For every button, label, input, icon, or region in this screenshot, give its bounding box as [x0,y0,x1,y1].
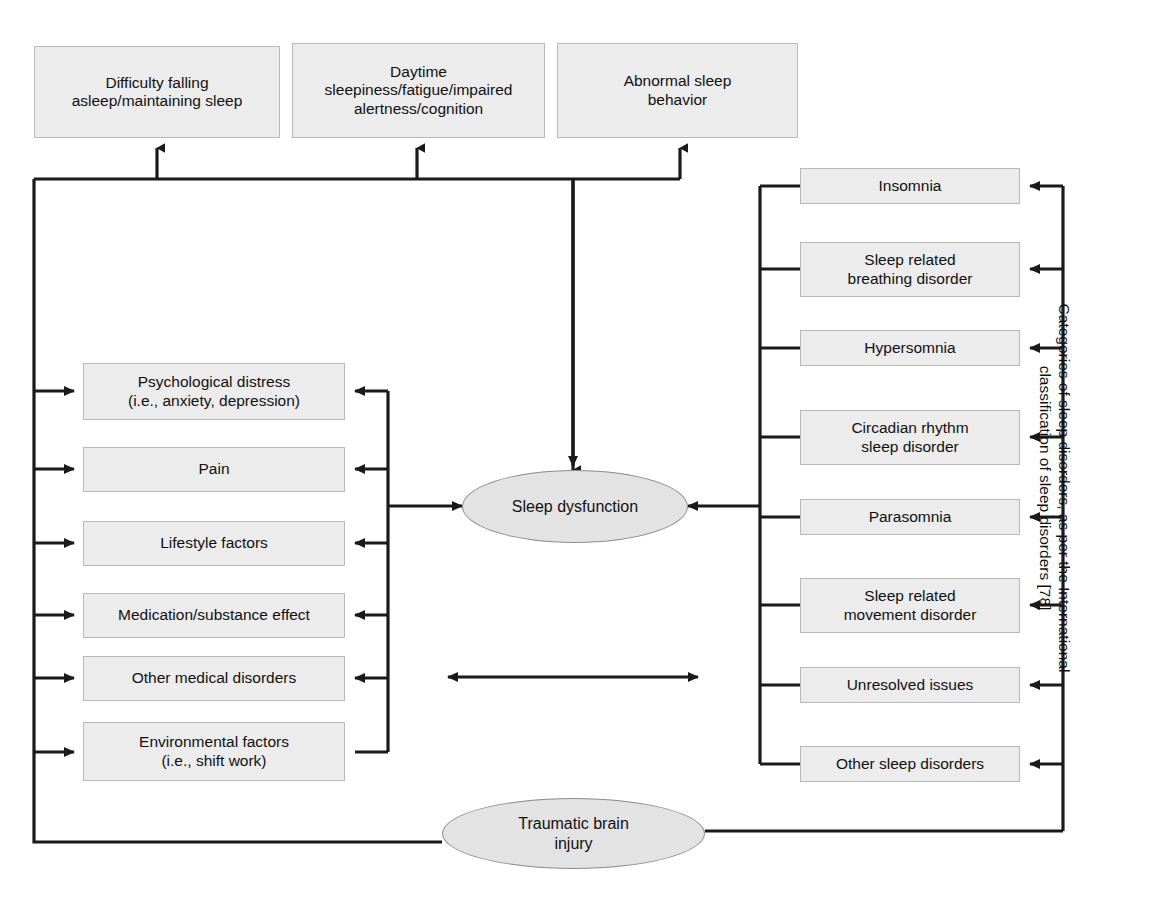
category-label: Insomnia [879,177,942,195]
symptom-label: Abnormal sleep behavior [624,72,732,109]
category-box-unresolved-issues[interactable]: Unresolved issues [800,667,1020,703]
node-traumatic-brain-injury[interactable]: Traumatic brain injury [442,798,705,869]
symptom-box-abnormal-sleep-behavior[interactable]: Abnormal sleep behavior [557,43,798,138]
contributor-box-pain[interactable]: Pain [83,447,345,492]
category-label: Other sleep disorders [836,755,984,773]
symptom-label: Daytime sleepiness/fatigue/impaired aler… [325,63,513,118]
category-label: Parasomnia [869,508,952,526]
category-label: Unresolved issues [847,676,974,694]
category-box-sleep-related-movement-disorder[interactable]: Sleep related movement disorder [800,578,1020,633]
category-box-insomnia[interactable]: Insomnia [800,168,1020,204]
contributor-label: Environmental factors (i.e., shift work) [139,733,289,770]
symptom-box-daytime-sleepiness[interactable]: Daytime sleepiness/fatigue/impaired aler… [292,43,545,138]
contributor-box-lifestyle-factors[interactable]: Lifestyle factors [83,521,345,566]
contributor-label: Psychological distress (i.e., anxiety, d… [128,373,300,410]
contributor-label: Medication/substance effect [118,606,310,624]
contributor-box-environmental-factors[interactable]: Environmental factors (i.e., shift work) [83,722,345,781]
category-box-circadian-rhythm-sleep-disorder[interactable]: Circadian rhythm sleep disorder [800,410,1020,465]
contributor-label: Other medical disorders [132,669,297,687]
traumatic-brain-injury-label: Traumatic brain injury [518,814,629,852]
side-label-text: Categories of sleep disorders, as per th… [1037,304,1073,673]
category-box-parasomnia[interactable]: Parasomnia [800,499,1020,535]
contributor-box-medication-substance-effect[interactable]: Medication/substance effect [83,593,345,638]
categories-side-label: Categories of sleep disorders, as per th… [1012,168,1074,808]
diagram-canvas: Difficulty falling asleep/maintaining sl… [0,0,1152,899]
symptom-box-difficulty-falling-asleep[interactable]: Difficulty falling asleep/maintaining sl… [34,46,280,138]
symptom-label: Difficulty falling asleep/maintaining sl… [72,74,243,111]
contributor-label: Pain [198,460,229,478]
category-label: Circadian rhythm sleep disorder [851,419,968,456]
category-label: Sleep related movement disorder [844,587,977,624]
contributor-label: Lifestyle factors [160,534,268,552]
category-box-other-sleep-disorders[interactable]: Other sleep disorders [800,746,1020,782]
sleep-dysfunction-label: Sleep dysfunction [512,497,638,516]
category-label: Hypersomnia [864,339,955,357]
contributor-box-other-medical-disorders[interactable]: Other medical disorders [83,656,345,701]
category-box-hypersomnia[interactable]: Hypersomnia [800,330,1020,366]
node-sleep-dysfunction[interactable]: Sleep dysfunction [462,470,688,543]
category-box-sleep-related-breathing-disorder[interactable]: Sleep related breathing disorder [800,242,1020,297]
contributor-box-psychological-distress[interactable]: Psychological distress (i.e., anxiety, d… [83,363,345,420]
category-label: Sleep related breathing disorder [848,251,973,288]
